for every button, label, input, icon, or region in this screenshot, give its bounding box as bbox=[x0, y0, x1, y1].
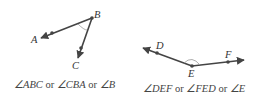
point-f bbox=[226, 60, 230, 64]
caption-name-1: ∠DEF bbox=[143, 83, 172, 94]
angle-arc-b bbox=[78, 24, 87, 30]
point-a bbox=[50, 31, 54, 35]
caption-name-3: ∠B bbox=[100, 79, 115, 90]
caption-angle-def: ∠DEF or ∠FED or ∠E bbox=[143, 82, 245, 94]
caption-name-2: ∠CBA bbox=[57, 79, 86, 90]
ray-bc bbox=[78, 18, 92, 58]
caption-or: or bbox=[172, 83, 186, 94]
caption-name-3: ∠E bbox=[230, 83, 245, 94]
label-f: F bbox=[225, 49, 231, 60]
point-d bbox=[155, 51, 159, 55]
caption-or: or bbox=[43, 79, 57, 90]
label-e: E bbox=[188, 68, 194, 79]
caption-or: or bbox=[86, 79, 100, 90]
label-b: B bbox=[94, 9, 100, 20]
caption-or: or bbox=[216, 83, 230, 94]
label-a: A bbox=[31, 34, 37, 45]
ray-ed bbox=[143, 48, 192, 66]
label-c: C bbox=[72, 60, 79, 71]
caption-name-1: ∠ABC bbox=[14, 79, 43, 90]
caption-name-2: ∠FED bbox=[186, 83, 215, 94]
angle-abc-figure bbox=[41, 16, 94, 58]
ray-ba bbox=[41, 18, 92, 38]
label-d: D bbox=[156, 40, 164, 51]
caption-angle-abc: ∠ABC or ∠CBA or ∠B bbox=[14, 78, 115, 90]
point-c bbox=[79, 46, 83, 50]
